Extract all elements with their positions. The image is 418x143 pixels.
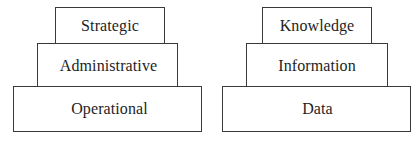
tier-label: Administrative	[58, 57, 157, 74]
tier-label: Operational	[67, 101, 148, 117]
tier-administrative: Administrative	[37, 43, 178, 87]
tier-strategic: Strategic	[55, 7, 165, 44]
tier-label: Data	[300, 101, 333, 117]
tier-label: Strategic	[81, 17, 139, 34]
tier-label: Information	[278, 57, 356, 74]
tier-data: Data	[222, 86, 411, 132]
tier-knowledge: Knowledge	[262, 7, 372, 44]
tier-information: Information	[246, 43, 388, 87]
tier-operational: Operational	[13, 86, 202, 132]
tier-label: Knowledge	[280, 17, 355, 34]
